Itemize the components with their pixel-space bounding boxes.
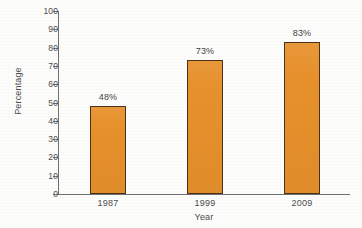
y-tick-label-wrap-20: 20	[22, 153, 58, 154]
y-tick-label-wrap-70: 70	[22, 62, 58, 63]
y-tick-label-wrap-40: 40	[22, 117, 58, 118]
x-tick-label-2009: 2009	[267, 199, 337, 208]
bar-label-2009: 83%	[272, 29, 332, 38]
y-tick-label-30: 30	[34, 135, 58, 144]
x-axis-line	[58, 194, 350, 195]
x-tick-label-1999: 1999	[170, 199, 240, 208]
bar-label-1999: 73%	[175, 47, 235, 56]
y-tick-label-20: 20	[34, 153, 58, 162]
bar-1999	[187, 60, 223, 194]
bar-1987	[90, 106, 126, 194]
y-tick-label-wrap-10: 10	[22, 172, 58, 173]
y-axis-title: Percentage	[13, 51, 23, 131]
x-axis-title: Year	[58, 212, 350, 222]
y-tick-label-wrap-80: 80	[22, 44, 58, 45]
y-tick-label-80: 80	[34, 44, 58, 53]
y-tick-label-60: 60	[34, 80, 58, 89]
y-tick-label-90: 90	[34, 25, 58, 34]
y-tick-label-100: 100	[34, 7, 58, 16]
y-tick-label-wrap-90: 90	[22, 25, 58, 26]
y-tick-label-wrap-60: 60	[22, 80, 58, 81]
y-tick-label-wrap-50: 50	[22, 99, 58, 100]
y-tick-label-wrap-100: 100	[22, 7, 58, 8]
y-tick-label-70: 70	[34, 62, 58, 71]
plot-area: 100 90 80 70 60 50 40 30	[0, 0, 362, 228]
bar-label-1987: 48%	[78, 93, 138, 102]
y-tick-label-wrap-30: 30	[22, 135, 58, 136]
bar-2009	[284, 42, 320, 194]
y-tick-label-50: 50	[34, 99, 58, 108]
y-tick-label-40: 40	[34, 117, 58, 126]
y-tick-label-wrap-0: 0	[22, 190, 58, 191]
y-tick-label-0: 0	[34, 190, 58, 199]
chart-figure: 100 90 80 70 60 50 40 30	[0, 0, 362, 228]
y-tick-label-10: 10	[34, 172, 58, 181]
y-axis-line	[58, 11, 59, 195]
x-tick-label-1987: 1987	[73, 199, 143, 208]
